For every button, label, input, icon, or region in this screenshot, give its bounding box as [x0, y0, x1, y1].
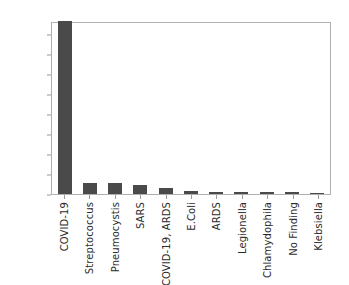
bar: [310, 193, 324, 194]
x-tick-slot: Pneumocystis: [102, 195, 127, 285]
bar: [133, 185, 147, 194]
x-axis: COVID-19StreptococcusPneumocystisSARSCOV…: [51, 195, 331, 285]
bar: [108, 183, 122, 194]
x-tick-label: SARS: [135, 202, 146, 229]
x-tick-label: ARDS: [211, 202, 222, 230]
x-tick-mark: [293, 195, 294, 199]
plot-area: [51, 22, 331, 195]
x-tick-mark: [242, 195, 243, 199]
bar: [234, 192, 248, 194]
x-tick-slot: COVID-19: [51, 195, 76, 285]
x-tick-label: No Finding: [287, 202, 298, 256]
x-tick-mark: [191, 195, 192, 199]
bar: [159, 188, 173, 194]
x-tick-slot: Legionella: [229, 195, 254, 285]
x-tick-label: E.Coli: [185, 202, 196, 231]
x-tick-label: COVID-19, ARDS: [160, 202, 171, 285]
x-tick-mark: [216, 195, 217, 199]
x-tick-label: Chlamydophila: [262, 202, 273, 278]
bar: [58, 21, 72, 194]
bar-slot: [305, 23, 330, 194]
x-tick-slot: No Finding: [280, 195, 305, 285]
x-tick-slot: Klebsiella: [306, 195, 331, 285]
bar-slot: [229, 23, 254, 194]
bar: [260, 192, 274, 194]
bar-slot: [153, 23, 178, 194]
bar-slot: [52, 23, 77, 194]
x-tick-label: Pneumocystis: [109, 202, 120, 272]
bar: [184, 191, 198, 194]
x-tick-slot: Chlamydophila: [255, 195, 280, 285]
y-axis: 0255075100125150175200: [0, 0, 51, 285]
x-tick-slot: Streptococcus: [76, 195, 101, 285]
x-tick-label: COVID-19: [58, 202, 69, 251]
x-tick-slot: ARDS: [204, 195, 229, 285]
x-tick-mark: [318, 195, 319, 199]
x-tick-label: Legionella: [236, 202, 247, 254]
x-tick-mark: [166, 195, 167, 199]
bar-chart-screenshot: 0255075100125150175200 COVID-19Streptoco…: [0, 0, 349, 285]
bar-slot: [178, 23, 203, 194]
bar-slot: [77, 23, 102, 194]
x-tick-mark: [115, 195, 116, 199]
bar: [209, 192, 223, 194]
bar-slot: [279, 23, 304, 194]
x-tick-mark: [267, 195, 268, 199]
x-tick-mark: [140, 195, 141, 199]
bar: [83, 183, 97, 194]
x-tick-label: Streptococcus: [84, 202, 95, 274]
x-tick-mark: [64, 195, 65, 199]
bar-slot: [254, 23, 279, 194]
x-tick-slot: COVID-19, ARDS: [153, 195, 178, 285]
bar-slot: [204, 23, 229, 194]
bar: [285, 192, 299, 194]
bars-layer: [52, 23, 330, 194]
x-tick-slot: E.Coli: [178, 195, 203, 285]
x-tick-label: Klebsiella: [313, 202, 324, 251]
bar-slot: [103, 23, 128, 194]
bar-slot: [128, 23, 153, 194]
x-tick-mark: [89, 195, 90, 199]
x-tick-slot: SARS: [127, 195, 152, 285]
